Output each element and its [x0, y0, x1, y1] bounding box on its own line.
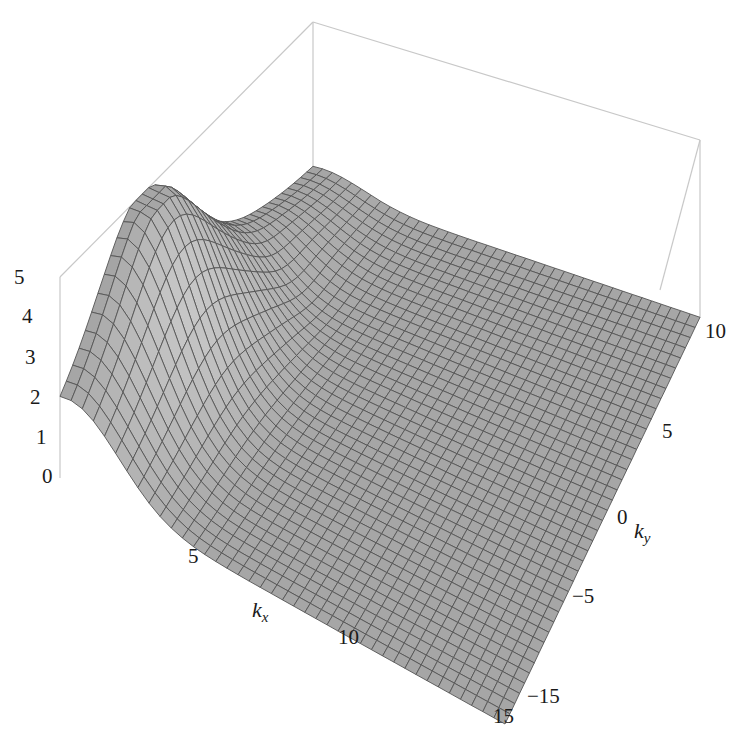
- z-tick-5: 5: [14, 267, 25, 288]
- z-tick-1: 1: [36, 427, 47, 448]
- ky-tick-5: 5: [662, 421, 673, 442]
- kx-tick-5: 5: [188, 546, 199, 567]
- kx-axis-label: kx: [252, 599, 268, 625]
- kx-tick-15: 15: [493, 706, 514, 727]
- ky-tick-minus5: −5: [572, 586, 594, 607]
- kx-tick-10: 10: [338, 627, 359, 648]
- z-tick-3: 3: [25, 347, 36, 368]
- z-tick-0: 0: [42, 466, 53, 487]
- ky-tick-10: 10: [705, 321, 726, 342]
- ky-axis-label: ky: [634, 520, 650, 546]
- surface-plot: [0, 0, 744, 735]
- surface-mesh: [60, 166, 700, 724]
- box-edge: [313, 22, 700, 140]
- ky-tick-0: 0: [617, 507, 628, 528]
- z-tick-4: 4: [22, 306, 33, 327]
- ky-tick-minus15: −15: [527, 686, 560, 707]
- z-tick-2: 2: [30, 387, 41, 408]
- box-edge: [660, 140, 700, 290]
